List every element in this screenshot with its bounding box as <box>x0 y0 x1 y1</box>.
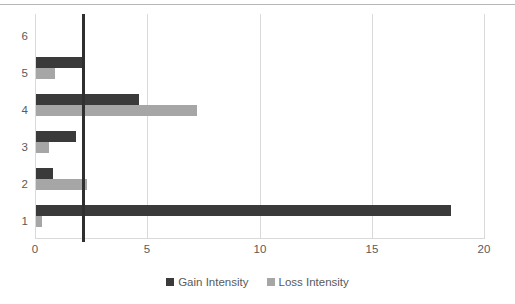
legend-swatch-icon-gain <box>166 278 174 286</box>
x-axis-line <box>35 238 485 239</box>
y-tick-label-2: 2 <box>6 178 28 190</box>
bar-chart: 6 5 4 3 2 1 0 5 10 15 20 Gain Intensity … <box>0 0 515 304</box>
y-tick-label-4: 4 <box>6 104 28 116</box>
y-tick-label-3: 3 <box>6 141 28 153</box>
bar-gain-intensity-3 <box>35 131 76 142</box>
x-tick-label-0: 0 <box>15 243 55 255</box>
bar-loss-intensity-2 <box>35 179 87 190</box>
legend-swatch-icon-loss <box>267 278 275 286</box>
threshold-line <box>82 14 85 242</box>
bar-loss-intensity-3 <box>35 142 49 153</box>
bar-gain-intensity-2 <box>35 168 53 179</box>
y-tick-label-1: 1 <box>6 215 28 227</box>
x-tick-label-20: 20 <box>464 243 504 255</box>
y-axis-line <box>35 14 36 238</box>
y-tick-label-5: 5 <box>6 67 28 79</box>
x-tick-label-10: 10 <box>240 243 280 255</box>
bar-gain-intensity-5 <box>35 57 82 68</box>
x-tick-label-15: 15 <box>352 243 392 255</box>
plot-area <box>35 14 485 238</box>
top-divider-rule <box>0 4 515 5</box>
bar-loss-intensity-4 <box>35 105 197 116</box>
legend-entry-loss-intensity[interactable]: Loss Intensity <box>267 276 349 288</box>
bar-loss-intensity-5 <box>35 68 55 79</box>
bar-loss-intensity-1 <box>35 216 42 227</box>
bar-gain-intensity-4 <box>35 94 139 105</box>
bar-gain-intensity-1 <box>35 205 451 216</box>
y-tick-label-6: 6 <box>6 30 28 42</box>
x-tick-label-5: 5 <box>127 243 167 255</box>
gridline-20 <box>484 14 485 238</box>
legend-label-loss-intensity: Loss Intensity <box>279 276 349 288</box>
legend-label-gain-intensity: Gain Intensity <box>178 276 248 288</box>
chart-legend: Gain Intensity Loss Intensity <box>0 276 515 288</box>
legend-entry-gain-intensity[interactable]: Gain Intensity <box>166 276 248 288</box>
